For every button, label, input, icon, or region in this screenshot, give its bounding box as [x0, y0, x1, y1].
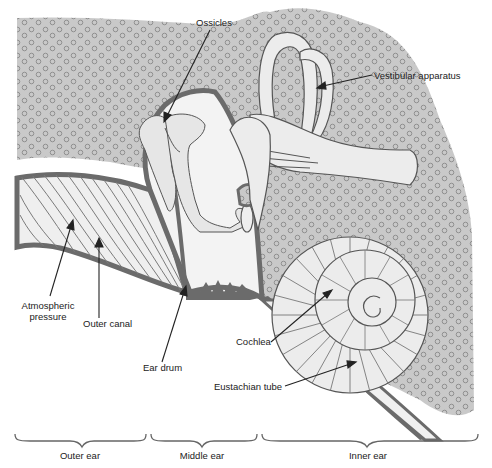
label-eustachian-tube: Eustachian tube [214, 381, 282, 392]
region-label-inner-ear: Inner ear [318, 450, 418, 461]
ear-diagram: Ossicles Vestibular apparatus Atmospheri… [0, 0, 492, 468]
label-vestibular-apparatus: Vestibular apparatus [374, 70, 461, 81]
region-label-outer-ear: Outer ear [30, 450, 130, 461]
label-atmospheric-line2: pressure [18, 311, 78, 322]
label-atmospheric-pressure: Atmospheric pressure [18, 300, 78, 322]
label-ear-drum: Ear drum [143, 362, 182, 373]
label-outer-canal: Outer canal [83, 318, 132, 329]
label-ossicles: Ossicles [196, 17, 232, 28]
region-braces [15, 434, 478, 447]
label-atmospheric-line1: Atmospheric [18, 300, 78, 311]
region-label-middle-ear: Middle ear [152, 450, 252, 461]
label-cochlea: Cochlea [236, 336, 271, 347]
cochlea [272, 235, 428, 393]
